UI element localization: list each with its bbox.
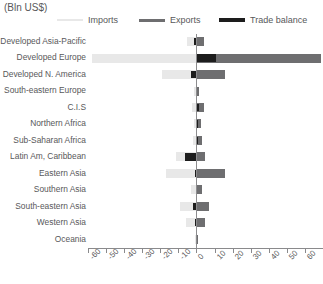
- bar-group: [88, 100, 323, 115]
- bar-group: [88, 232, 323, 247]
- legend-item-imports: Imports: [57, 13, 118, 27]
- chart-row: South-eastern Europe: [0, 83, 323, 98]
- x-axis-tick: [215, 248, 216, 253]
- chart-legend: Imports Exports Trade balance: [0, 13, 323, 27]
- bar-group: [88, 182, 323, 197]
- category-label: Oceania: [0, 232, 86, 247]
- bar-group: [88, 215, 323, 230]
- x-axis-tick-label: -20: [160, 247, 175, 262]
- legend-swatch-imports: [57, 19, 83, 21]
- legend-label-exports: Exports: [170, 13, 201, 27]
- category-label: Latin Am, Caribbean: [0, 149, 86, 164]
- category-label: Developed N. America: [0, 67, 86, 82]
- x-axis-tick-label: -50: [106, 247, 121, 262]
- category-label: Developed Europe: [0, 50, 86, 65]
- bar-group: [88, 149, 323, 164]
- legend-swatch-trade-balance: [219, 18, 245, 22]
- legend-item-trade-balance: Trade balance: [219, 13, 307, 27]
- x-axis-tick-label: 0: [196, 252, 206, 262]
- category-label: South-eastern Asia: [0, 199, 86, 214]
- chart-row: Western Asia: [0, 215, 323, 230]
- chart-row: Eastern Asia: [0, 166, 323, 181]
- x-axis-tick-label: -40: [124, 247, 139, 262]
- category-label: Northern Africa: [0, 116, 86, 131]
- plot-area: Developed Asia-PacificDeveloped EuropeDe…: [0, 34, 323, 248]
- legend-swatch-exports: [139, 19, 165, 22]
- chart-row: Oceania: [0, 232, 323, 247]
- x-axis-tick-label: 20: [233, 249, 246, 262]
- legend-label-trade-balance: Trade balance: [250, 13, 307, 27]
- chart-row: Sub-Saharan Africa: [0, 133, 323, 148]
- x-axis-tick-label: 40: [269, 249, 282, 262]
- x-axis-tick-label: -30: [142, 247, 157, 262]
- legend-label-imports: Imports: [88, 13, 118, 27]
- x-axis-tick-label: 60: [305, 249, 318, 262]
- category-label: Western Asia: [0, 215, 86, 230]
- bar-trade-balance: [185, 153, 197, 160]
- chart-row: South-eastern Asia: [0, 199, 323, 214]
- legend-item-exports: Exports: [139, 13, 201, 27]
- zero-axis-line: [196, 34, 197, 250]
- x-axis-tick: [269, 248, 270, 253]
- bar-group: [88, 83, 323, 98]
- chart-row: Northern Africa: [0, 116, 323, 131]
- chart-row: Latin Am, Caribbean: [0, 149, 323, 164]
- category-label: Eastern Asia: [0, 166, 86, 181]
- bar-exports: [196, 218, 205, 227]
- category-label: C.I.S: [0, 100, 86, 115]
- chart-root: (Bln US$) Imports Exports Trade balance …: [0, 0, 323, 284]
- bar-group: [88, 116, 323, 131]
- x-axis-tick-label: 30: [251, 249, 264, 262]
- bar-group: [88, 166, 323, 181]
- chart-row: Southern Asia: [0, 182, 323, 197]
- chart-row: Developed Asia-Pacific: [0, 34, 323, 49]
- bar-group: [88, 50, 323, 65]
- x-axis-tick: [287, 248, 288, 253]
- x-axis-tick-label: -10: [178, 247, 193, 262]
- axis-unit-label: (Bln US$): [4, 2, 47, 13]
- bar-group: [88, 199, 323, 214]
- chart-row: C.I.S: [0, 100, 323, 115]
- bar-exports: [196, 202, 209, 211]
- bar-group: [88, 67, 323, 82]
- x-axis-tick-label: 50: [287, 249, 300, 262]
- category-label: Developed Asia-Pacific: [0, 34, 86, 49]
- bar-exports: [196, 169, 225, 178]
- bar-exports: [196, 152, 205, 161]
- bar-group: [88, 133, 323, 148]
- x-axis-tick: [251, 248, 252, 253]
- x-axis-tick-label: 10: [215, 249, 228, 262]
- bar-exports: [196, 70, 225, 79]
- bar-imports: [92, 54, 197, 63]
- category-label: Sub-Saharan Africa: [0, 133, 86, 148]
- chart-row: Developed Europe: [0, 50, 323, 65]
- x-axis: -60-50-40-30-20-10010203040506070: [88, 248, 323, 284]
- x-axis-tick-label: -60: [88, 247, 103, 262]
- chart-row: Developed N. America: [0, 67, 323, 82]
- bar-exports: [196, 37, 203, 46]
- category-label: Southern Asia: [0, 182, 86, 197]
- bar-trade-balance: [196, 54, 216, 61]
- bar-imports: [166, 169, 197, 178]
- bar-group: [88, 34, 323, 49]
- x-axis-tick: [233, 248, 234, 253]
- category-label: South-eastern Europe: [0, 83, 86, 98]
